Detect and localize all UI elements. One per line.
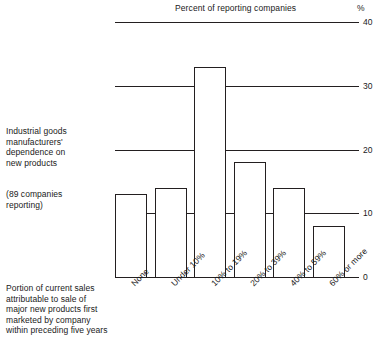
y-tick-label-30: 30 [363, 81, 372, 91]
y-tick-mark-20 [345, 150, 359, 151]
bar-chart-figure: Percent of reporting companies % Industr… [0, 0, 377, 341]
caption-main: Industrial goods manufacturers' dependen… [6, 126, 114, 168]
caption-main-line-1: Industrial goods [6, 126, 114, 137]
x-axis-category-labels: NoneUnder 10%10% to 19%20% to 39%40% to … [115, 277, 377, 341]
caption-main-line-4: new products [6, 158, 114, 169]
chart-title: Percent of reporting companies [175, 3, 296, 13]
caption-sub-line-1: (89 companies [6, 189, 114, 200]
y-tick-label-40: 40 [363, 17, 372, 27]
caption-sample-size: (89 companies reporting) [6, 189, 114, 210]
caption-main-line-2: manufacturers' [6, 137, 114, 148]
y-tick-mark-10 [345, 213, 359, 214]
y-tick-label-20: 20 [363, 145, 372, 155]
y-tick-mark-30 [345, 86, 359, 87]
y-tick-mark-40 [345, 22, 359, 23]
caption-sub-line-2: reporting) [6, 200, 114, 211]
plot-area: 403020100 [115, 22, 345, 277]
bar-2 [194, 67, 226, 277]
bar-1 [155, 188, 187, 277]
y-axis-unit-symbol: % [357, 3, 365, 13]
y-tick-label-10: 10 [363, 208, 372, 218]
bar-0 [115, 194, 147, 277]
bars-group [115, 22, 345, 277]
caption-main-line-3: dependence on [6, 147, 114, 158]
